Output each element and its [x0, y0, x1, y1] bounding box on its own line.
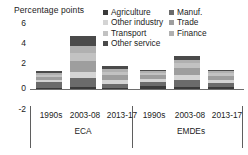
plot-area	[30, 20, 244, 90]
x-label-emdes-2013-17: 2013-17	[206, 110, 248, 120]
bar-emdes-2003-08[interactable]	[174, 56, 200, 89]
bar-segment-agriculture	[208, 87, 234, 89]
legend-swatch-manufacturing	[169, 10, 174, 15]
bar-segment-trade	[174, 68, 200, 75]
y-tick-0: 0	[21, 84, 26, 93]
bar-segment-other-service	[70, 36, 96, 45]
legend-label-manufacturing: Manuf.	[177, 8, 202, 17]
x-group-label-eca: ECA	[44, 126, 122, 136]
stacked-bar-chart: Percentage points Agriculture Manuf. Oth…	[0, 0, 248, 155]
zero-baseline	[30, 89, 244, 90]
y-axis: 6 4 2 0 -2	[0, 0, 26, 155]
bar-segment-agriculture	[36, 88, 62, 89]
x-group-label-emdes: EMDEs	[148, 126, 234, 136]
bar-segment-agriculture	[174, 87, 200, 89]
bar-emdes-2013-17[interactable]	[208, 70, 234, 89]
y-tick-2: 2	[21, 59, 26, 68]
bar-segment-agriculture	[102, 88, 128, 89]
bar-eca-2013-17[interactable]	[102, 66, 128, 89]
y-tick-6: 6	[21, 19, 26, 28]
bar-segment-finance	[70, 46, 96, 54]
y-tick-neg-2: -2	[18, 105, 26, 114]
y-tick-4: 4	[21, 39, 26, 48]
x-axis: 1990s 2003-08 2013-17 1990s 2003-08 2013…	[30, 104, 244, 152]
bar-segment-manuf	[174, 80, 200, 87]
bar-segment-agriculture	[70, 87, 96, 89]
bar-emdes-1990s[interactable]	[140, 70, 166, 89]
legend-swatch-agriculture	[103, 10, 108, 15]
legend-label-agriculture: Agriculture	[111, 8, 151, 17]
legend-item-agriculture[interactable]: Agriculture	[103, 8, 167, 17]
bar-segment-transport	[70, 53, 96, 61]
bar-eca-2003-08[interactable]	[70, 36, 96, 89]
bar-eca-1990s[interactable]	[36, 71, 62, 89]
x-axis-separator-left	[30, 106, 31, 148]
bar-segment-agriculture	[140, 86, 166, 89]
bar-segment-manuf	[70, 78, 96, 87]
legend-item-manufacturing[interactable]: Manuf.	[169, 8, 229, 17]
bar-segment-trade	[70, 61, 96, 72]
